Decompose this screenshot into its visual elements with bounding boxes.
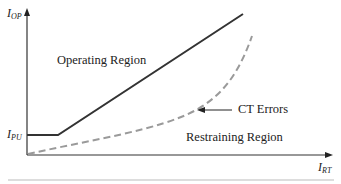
- operating-characteristic-line: [27, 14, 243, 135]
- x-axis-arrow-icon: [325, 152, 333, 158]
- characteristic-diagram: [0, 0, 341, 184]
- y-axis-label: IOP: [7, 6, 22, 21]
- operating-region-label: Operating Region: [57, 53, 146, 68]
- ct-errors-label: CT Errors: [238, 102, 288, 117]
- restraining-region-label: Restraining Region: [186, 130, 283, 145]
- y-axis-arrow-icon: [24, 8, 30, 16]
- pickup-label: IPU: [7, 127, 22, 142]
- x-axis-label: IRT: [318, 160, 331, 175]
